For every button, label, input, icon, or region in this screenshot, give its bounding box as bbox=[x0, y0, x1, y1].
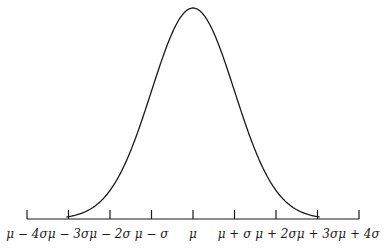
tick-label: μ + 4σ bbox=[338, 227, 380, 241]
tick-label: μ − σ bbox=[135, 227, 169, 241]
tick-label: μ − 3σ bbox=[48, 227, 90, 241]
tick-label: μ bbox=[189, 227, 197, 241]
tick-label: μ − 2σ bbox=[89, 227, 131, 241]
tick-label: μ − 4σ bbox=[6, 227, 48, 241]
normal-distribution-chart: μ − 4σμ − 3σμ − 2σμ − σμμ + σμ + 2σμ + 3… bbox=[0, 0, 387, 250]
tick-label: μ + 3σ bbox=[297, 227, 339, 241]
tick-label: μ + 2σ bbox=[255, 227, 297, 241]
x-tick-labels: μ − 4σμ − 3σμ − 2σμ − σμμ + σμ + 2σμ + 3… bbox=[6, 227, 380, 241]
tick-label: μ + σ bbox=[218, 227, 252, 241]
bell-curve bbox=[66, 8, 319, 217]
